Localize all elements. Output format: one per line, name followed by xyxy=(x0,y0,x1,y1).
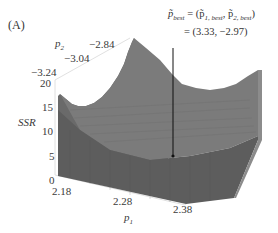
minimum-marker xyxy=(171,154,174,157)
z-tick-1: 5 xyxy=(49,151,55,162)
panel-label: (A) xyxy=(8,18,25,33)
annotation-line-1: p̃best = (p̃1, best, p̃2, best) xyxy=(168,7,255,25)
z-tick-2: 10 xyxy=(42,126,53,137)
x-tick-1: 2.28 xyxy=(113,196,132,207)
x-tick-2: 2.38 xyxy=(173,204,192,215)
x-tick-0: 2.18 xyxy=(52,186,71,197)
minimum-annotation: p̃best = (p̃1, best, p̃2, best) = (3.33,… xyxy=(168,7,255,38)
z-tick-3: 15 xyxy=(42,102,53,113)
y-tick-1: −3.04 xyxy=(64,53,89,64)
z-tick-4: 20 xyxy=(40,78,51,89)
y-axis-label: p2 xyxy=(55,38,64,54)
annotation-line-2: = (3.33, −2.97) xyxy=(168,25,255,38)
z-axis-label: SSR xyxy=(18,117,36,128)
x-axis-label: p1 xyxy=(124,212,133,228)
y-tick-2: −2.84 xyxy=(89,39,114,50)
